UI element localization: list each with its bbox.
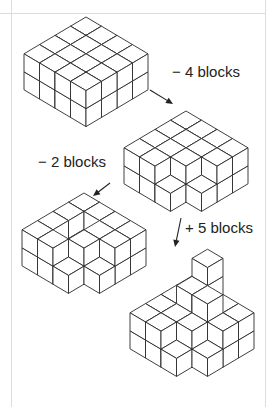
label-minus-2-blocks: − 2 blocks [38,153,106,170]
label-minus-4-blocks: − 4 blocks [172,63,240,80]
arrow-icon [150,90,173,104]
cube-stack-step-1 [24,17,148,127]
cube-stack-step-3 [22,193,146,293]
diagram-canvas [0,0,271,407]
arrow-icon [93,183,110,196]
cube-stack-step-2 [124,111,248,211]
label-plus-5-blocks: + 5 blocks [185,219,253,236]
cube-stack-step-4 [130,249,254,376]
arrow-icon [173,218,181,247]
